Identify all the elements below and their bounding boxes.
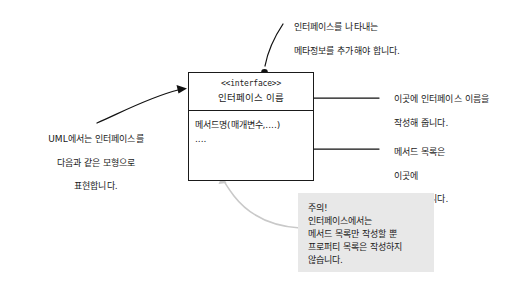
left-annotation-arrow [97, 85, 187, 123]
method-ellipsis-label: .... [195, 134, 313, 144]
annotation-right-name-line1: 이곳에 인터페이스 이름을 [394, 94, 489, 104]
uml-box-header-compartment: <<interface>> 인터페이스 이름 [189, 73, 313, 111]
annotation-left-line1: UML에서는 인터페이스를 [48, 134, 144, 144]
caution-note-line5: 않습니다. [308, 254, 434, 267]
annotation-right-methods-line2: 이곳에 [394, 171, 418, 181]
annotation-left-uml-model: UML에서는 인터페이스를 다음과 같은 모형으로 표현합니다. [22, 122, 158, 205]
caution-note-line1: 주의! [308, 202, 434, 215]
annotation-right-methods-line1: 메서드 목록은 [394, 147, 446, 157]
interface-name-label: 인터페이스 이름 [218, 90, 284, 104]
annotation-left-line3: 표현합니다. [74, 181, 117, 191]
method-signature-label: 메서드명(매개변수,....) [195, 118, 313, 131]
interface-stereotype-label: <<interface>> [221, 79, 281, 88]
annotation-top-line2: 메타정보를 추가해야 합니다. [294, 46, 400, 56]
annotation-left-line2: 다음과 같은 모형으로 [57, 158, 136, 168]
annotation-right-name-line2: 작성해 줍니다. [394, 118, 449, 128]
top-annotation-leader [261, 24, 283, 76]
annotation-top-line1: 인터페이스를 나타내는 [294, 22, 378, 32]
diagram-canvas: <<interface>> 인터페이스 이름 메서드명(매개변수,....) .… [0, 0, 512, 296]
annotation-top-metadata: 인터페이스를 나타내는 메타정보를 추가해야 합니다. [282, 10, 400, 69]
caution-note-line4: 프로퍼티 목록은 작성하지 [308, 241, 434, 254]
caution-note-line2: 인터페이스에서는 [308, 215, 434, 228]
caution-note-box: 주의! 인터페이스에서는 메서드 목록만 작성할 뿐 프로퍼티 목록은 작성하지… [298, 193, 434, 272]
uml-box-method-compartment: 메서드명(매개변수,....) .... [189, 111, 313, 182]
note-connector-arrow [219, 176, 301, 228]
annotation-right-interface-name: 이곳에 인터페이스 이름을 작성해 줍니다. [382, 82, 489, 141]
caution-note-line3: 메서드 목록만 작성할 뿐 [308, 228, 434, 241]
uml-interface-box: <<interface>> 인터페이스 이름 메서드명(매개변수,....) .… [188, 72, 314, 181]
